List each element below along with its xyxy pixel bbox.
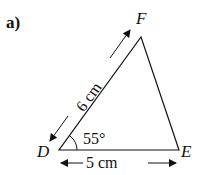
vertex-label-e: E	[180, 142, 192, 161]
part-label: a)	[6, 13, 20, 32]
triangle-diagram: a) D E F 6 cm 5 cm 55°	[0, 0, 200, 175]
vertex-label-f: F	[135, 9, 147, 28]
side-label-df: 6 cm	[72, 79, 105, 115]
angle-label-d: 55°	[83, 130, 105, 147]
vertex-label-d: D	[36, 142, 50, 161]
triangle-def	[59, 37, 179, 150]
dimension-arrow-df-lower	[50, 116, 68, 141]
side-label-de: 5 cm	[86, 154, 118, 171]
dimension-arrow-df-upper	[110, 30, 130, 58]
angle-arc-d	[70, 136, 77, 150]
